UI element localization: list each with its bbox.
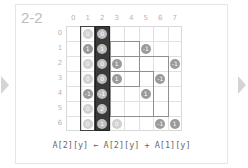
cell-value-circle: 1 <box>112 74 122 84</box>
cell-value-circle: 0 <box>83 29 93 39</box>
cell-value-circle: 0 <box>97 59 107 69</box>
cell-value-circle: 0 <box>83 104 93 114</box>
cell-value-circle: -1 <box>170 59 180 69</box>
cell-value-circle: 0 <box>97 29 107 39</box>
row-label: 5 <box>56 104 64 112</box>
cell-value-circle: 1 <box>97 119 107 129</box>
cell-value-circle: 1 <box>112 59 122 69</box>
cell-value-circle: 1 <box>170 119 180 129</box>
row-label: 4 <box>56 89 64 97</box>
column-label: 3 <box>110 14 125 22</box>
column-label: 5 <box>139 14 154 22</box>
column-label: 4 <box>124 14 139 22</box>
row-label: 1 <box>56 44 64 52</box>
cell-value-circle: 1 <box>141 89 151 99</box>
cell-value-circle: 1 <box>83 44 93 54</box>
slide-title: 2-2 <box>21 9 43 26</box>
cell-value-circle: 0 <box>97 74 107 84</box>
cell-value-circle: -1 <box>155 74 165 84</box>
cell-value-circle: -1 <box>155 119 165 129</box>
triangle-right-icon[interactable] <box>238 76 246 94</box>
column-label: 1 <box>81 14 96 22</box>
cell-value-circle: 0 <box>83 59 93 69</box>
row-label: 2 <box>56 59 64 67</box>
cell-value-circle: -1 <box>97 89 107 99</box>
cell-value-circle: 0 <box>112 119 122 129</box>
update-formula: A[2][y] ← A[2][y] + A[1][y] <box>30 140 213 150</box>
column-label: 2 <box>95 14 110 22</box>
cell-value-circle: 0 <box>83 119 93 129</box>
cell-value-circle: 2 <box>97 104 107 114</box>
column-label: 0 <box>66 14 81 22</box>
cell-value-circle: -1 <box>83 89 93 99</box>
cell-value-circle: 1 <box>97 44 107 54</box>
column-label: 7 <box>168 14 183 22</box>
row-label: 3 <box>56 74 64 82</box>
column-label: 6 <box>153 14 168 22</box>
cell-value-circle: -1 <box>141 44 151 54</box>
cell-value-circle: 0 <box>83 74 93 84</box>
row-label: 0 <box>56 29 64 37</box>
triangle-left-icon[interactable] <box>1 76 9 94</box>
row-label: 6 <box>56 119 64 127</box>
